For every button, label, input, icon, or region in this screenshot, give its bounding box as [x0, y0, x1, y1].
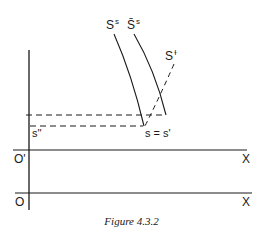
- label-origin-prime: O': [14, 153, 26, 165]
- label-sup: s: [115, 17, 119, 26]
- curve-s-d-dashed: [145, 64, 174, 126]
- label-curve-sd: Sɫ: [165, 49, 177, 62]
- diagram-canvas: [0, 0, 263, 235]
- label-x-axis-upper: X: [242, 153, 250, 165]
- label-sup: ɫ: [174, 48, 177, 57]
- label-curve-ss: Ss: [106, 18, 119, 31]
- label-s-double-prime: s'': [32, 128, 42, 139]
- figure-caption: Figure 4.3.2: [0, 215, 263, 227]
- label-curve-ss-bar: S̄s: [127, 18, 140, 31]
- curve-s-bar-s: [134, 34, 166, 115]
- label-x-axis-lower: X: [242, 196, 250, 208]
- label-base: S̄: [127, 18, 135, 32]
- curve-s-s: [114, 34, 144, 126]
- label-base: S: [106, 18, 114, 32]
- label-sup: s: [136, 17, 140, 26]
- label-s-eq-s-prime: s = s': [145, 128, 171, 139]
- label-base: S: [165, 49, 173, 63]
- label-origin: O: [15, 196, 24, 208]
